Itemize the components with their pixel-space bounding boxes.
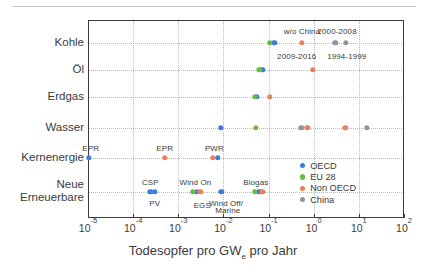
legend-marker-icon (300, 163, 305, 168)
legend-label: Non OECD (310, 183, 356, 193)
x-axis-tick-mark (178, 214, 179, 218)
x-axis-tick-label: 10-2 (214, 220, 232, 234)
chart-figure: KohleÖlErdgasWasserKernenergieNeueErneue… (0, 0, 426, 271)
y-axis-label-wasser: Wasser (0, 121, 84, 134)
legend-marker-icon (300, 174, 305, 179)
x-axis-tick-label: 101 (351, 220, 367, 234)
point-annotation: w/o China (284, 27, 320, 36)
x-axis-tick-label: 10-5 (79, 220, 97, 234)
y-axis-label-kohle: Kohle (0, 36, 84, 49)
legend-label: EU 28 (310, 172, 336, 182)
point-annotation: PWR (205, 144, 224, 153)
y-axis-label-text: Neue (0, 178, 84, 191)
chart-legend: OECDEU 28Non OECDChina (300, 160, 356, 206)
legend-item-oecd[interactable]: OECD (300, 160, 356, 171)
y-axis-label-text-2: Erneuerbare (0, 191, 84, 204)
y-axis-label-text: Kohle (0, 36, 84, 49)
legend-label: OECD (310, 161, 337, 171)
x-axis-tick-label: 100 (306, 220, 322, 234)
legend-item-non-oecd[interactable]: Non OECD (300, 183, 356, 194)
y-axis-label-oel: Öl (0, 63, 84, 76)
point-annotation: EPR (82, 144, 99, 153)
point-annotation: EPR (156, 144, 173, 153)
legend-label: China (310, 195, 334, 205)
legend-marker-icon (300, 197, 305, 202)
point-annotation: 2009-2016 (277, 52, 316, 61)
legend-item-china[interactable]: China (300, 194, 356, 205)
x-axis-tick-mark (133, 214, 134, 218)
x-axis-tick-label: 10-3 (169, 220, 187, 234)
y-axis-label-text: Wasser (0, 121, 84, 134)
y-axis-label-text: Kernenergie (0, 151, 84, 164)
point-annotation: Biogas (243, 178, 268, 187)
point-annotation: Wind On (180, 178, 212, 187)
y-axis-label-renewables: NeueErneuerbare (0, 178, 84, 203)
y-axis-label-text: Öl (0, 63, 84, 76)
x-axis-tick-mark (359, 214, 360, 218)
y-axis-label-text: Erdgas (0, 90, 84, 103)
x-axis-tick-mark (88, 214, 89, 218)
x-axis-tick-mark (404, 214, 405, 218)
x-axis-tick-label: 102 (396, 220, 412, 234)
point-annotation: CSP (142, 178, 159, 187)
legend-marker-icon (300, 186, 305, 191)
y-axis-label-kernenergie: Kernenergie (0, 151, 84, 164)
x-axis-tick-label: 10-1 (259, 220, 277, 234)
point-annotation: Marine (215, 206, 240, 215)
x-axis-title: Todesopfer pro GWe pro Jahr (0, 243, 426, 261)
x-axis-tick-mark (314, 214, 315, 218)
y-axis-label-erdgas: Erdgas (0, 90, 84, 103)
plot-area (88, 20, 404, 218)
x-axis-tick-mark (269, 214, 270, 218)
point-annotation: PV (149, 199, 160, 208)
point-annotation: 2000-2008 (318, 27, 357, 36)
point-annotation: 1994-1999 (327, 52, 366, 61)
x-axis-tick-label: 10-4 (124, 220, 142, 234)
legend-item-eu-28[interactable]: EU 28 (300, 171, 356, 182)
